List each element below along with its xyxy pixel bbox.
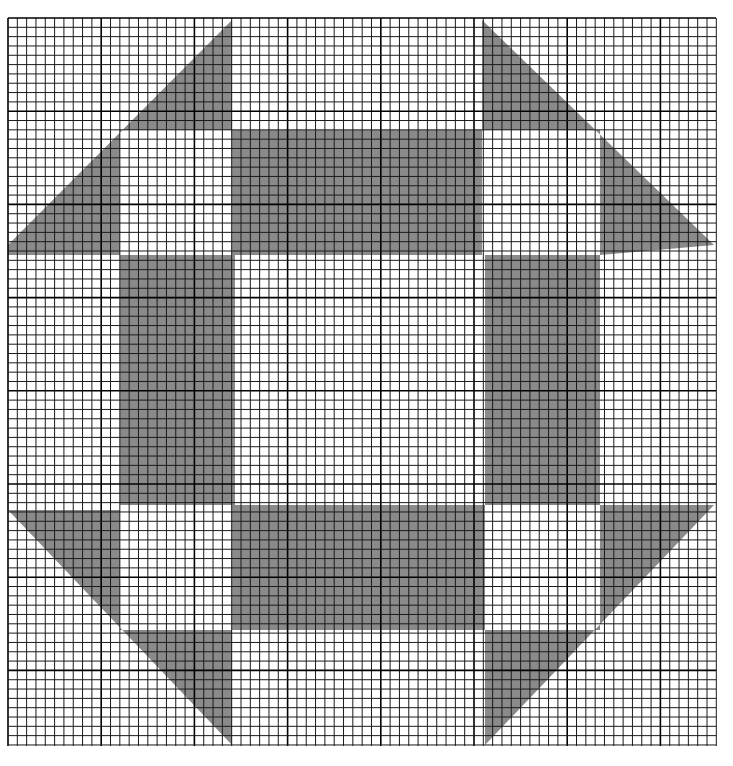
frame-left-shape	[120, 255, 235, 505]
quilt-grid-canvas	[0, 0, 733, 766]
